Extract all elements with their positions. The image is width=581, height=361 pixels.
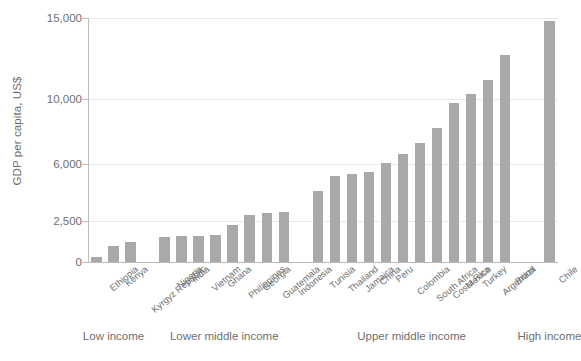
y-tick-mark [82, 221, 89, 222]
y-tick-mark [82, 164, 89, 165]
bar-peru[interactable] [381, 163, 392, 262]
y-tick-label: 2,500 [53, 215, 82, 227]
bar-philippines[interactable] [227, 225, 238, 262]
group-label-lower-middle-income: Lower middle income [170, 330, 279, 342]
y-tick-label: 10,000 [47, 93, 82, 105]
bar-ethiopia[interactable] [91, 257, 102, 262]
bar-turkey[interactable] [466, 94, 477, 262]
bar-jamaica[interactable] [347, 174, 358, 262]
y-tick-mark [82, 18, 89, 19]
bar-costa-rica[interactable] [432, 128, 443, 262]
y-axis-title: GDP per capita, US$ [6, 0, 28, 262]
bar-india[interactable] [176, 236, 187, 262]
y-tick-label: 15,000 [47, 12, 82, 24]
bar-south-africa[interactable] [415, 143, 426, 262]
bar-brazil[interactable] [500, 55, 511, 262]
bars-layer [88, 18, 558, 262]
bar-chile[interactable] [544, 21, 555, 262]
group-label-upper-middle-income: Upper middle income [357, 330, 466, 342]
bar-kenya[interactable] [108, 246, 119, 262]
bar-indonesia[interactable] [279, 212, 290, 262]
bar-guatemala[interactable] [262, 213, 273, 262]
plot-area [88, 18, 558, 262]
y-tick-mark [82, 262, 89, 263]
bar-georgia[interactable] [244, 215, 255, 262]
bar-china[interactable] [364, 172, 375, 262]
bar-nigeria[interactable] [159, 237, 170, 262]
x-axis-category-labels: EthiopiaKenyaKyrgyz RepublicNigeriaIndia… [88, 264, 558, 320]
y-axis-title-text: GDP per capita, US$ [11, 76, 23, 185]
x-label-brazil: Brazil [514, 264, 538, 287]
group-label-high-income: High income [518, 330, 581, 342]
bar-tunisia[interactable] [313, 191, 324, 262]
x-label-chile: Chile [557, 264, 580, 285]
x-axis-line [88, 262, 558, 263]
bar-mexico[interactable] [449, 103, 460, 262]
bar-colombia[interactable] [398, 154, 409, 262]
y-tick-mark [82, 99, 89, 100]
group-label-low-income: Low income [83, 330, 144, 342]
y-tick-label: 6,000 [53, 158, 82, 170]
bar-kyrgyz-republic[interactable] [125, 242, 136, 262]
bar-ghana[interactable] [210, 235, 221, 262]
bar-thailand[interactable] [330, 176, 341, 262]
bar-argentina[interactable] [483, 80, 494, 262]
bar-vietnam[interactable] [193, 236, 204, 262]
